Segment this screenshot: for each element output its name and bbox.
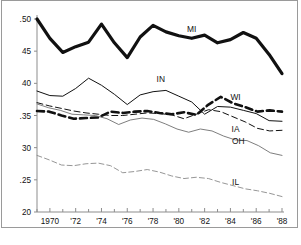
- y-axis-tick-label: 20: [22, 208, 32, 217]
- x-axis-tick-label: '74: [96, 217, 107, 226]
- x-axis-tick-label: '84: [225, 217, 236, 226]
- y-axis-tick-label: 40: [22, 79, 32, 88]
- series-line-mi: [37, 19, 282, 74]
- x-axis-tick-label: '80: [174, 217, 185, 226]
- x-axis-tick-label: '76: [122, 217, 133, 226]
- x-axis: 1970'72'74'76'78'80'82'84'86'88: [37, 208, 288, 226]
- x-axis-tick-label: '72: [70, 217, 81, 226]
- y-axis: .504540.3530.2520: [20, 15, 37, 217]
- series-line-wi: [37, 97, 282, 119]
- series-labels: MIINWIIAOHIL: [157, 24, 245, 187]
- x-axis-tick-label: '88: [277, 217, 288, 226]
- series-label-il: IL: [232, 177, 239, 187]
- chart-plot-area: .504540.3530.2520 1970'72'74'76'78'80'82…: [0, 0, 301, 245]
- series-line-in: [37, 78, 282, 121]
- series-line-il: [37, 155, 282, 196]
- line-chart-figure: .504540.3530.2520 1970'72'74'76'78'80'82…: [0, 0, 301, 245]
- series-label-wi: WI: [230, 92, 240, 102]
- x-axis-tick-label: '78: [148, 217, 159, 226]
- x-axis-tick-label: 1970: [41, 217, 60, 226]
- y-axis-tick-label: .35: [20, 112, 32, 121]
- x-axis-tick-label: '86: [251, 217, 262, 226]
- y-axis-tick-label: 30: [22, 144, 32, 153]
- series-label-ia: IA: [232, 124, 240, 134]
- y-axis-tick-label: .25: [20, 176, 32, 185]
- series-label-oh: OH: [232, 136, 245, 146]
- y-axis-tick-label: 45: [22, 47, 32, 56]
- x-axis-tick-label: '82: [199, 217, 210, 226]
- series-label-mi: MI: [187, 24, 196, 34]
- y-axis-tick-label: .50: [20, 15, 32, 24]
- series-label-in: IN: [157, 74, 165, 84]
- series-lines: [37, 19, 282, 197]
